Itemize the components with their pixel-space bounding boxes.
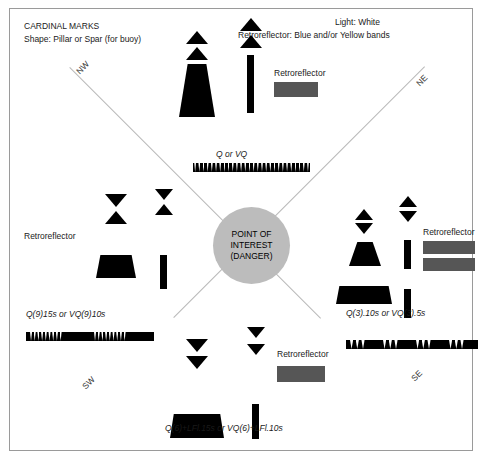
north-retroreflector-label: Retroreflector xyxy=(274,68,326,79)
east-light-rhythm-bar xyxy=(346,340,478,349)
north-light-rhythm-bar xyxy=(193,163,310,172)
west-spar-body xyxy=(160,255,167,289)
west-retroreflector-label: Retroreflector xyxy=(24,231,76,242)
east-pillar-band-yellow-mid xyxy=(346,266,384,286)
poi-line-1: POINT OF xyxy=(232,229,272,240)
north-spar-topmark-cone-upper-icon xyxy=(240,18,262,31)
page-title: CARDINAL MARKS xyxy=(24,21,99,32)
north-topmark-cone-upper-icon xyxy=(186,31,208,44)
poi-line-3: (DANGER) xyxy=(230,251,272,262)
west-topmark-cone-upper-icon xyxy=(105,194,127,207)
north-retroreflector-band xyxy=(274,82,318,97)
north-light-label: Q or VQ xyxy=(216,149,247,159)
south-topmark-cone-lower-icon xyxy=(186,356,208,369)
west-pillar-band-yellow-top xyxy=(99,231,133,255)
quadrant-label-se: SE xyxy=(409,368,424,383)
west-light-rhythm-bar xyxy=(26,332,154,341)
diagram-frame: CARDINAL MARKS Shape: Pillar or Spar (fo… xyxy=(9,8,473,451)
north-pillar-buoy-body xyxy=(179,64,215,117)
south-spar-topmark-cone-upper-icon xyxy=(247,327,265,338)
south-spar-body xyxy=(252,404,259,439)
west-topmark-cone-lower-icon xyxy=(105,211,127,224)
light-legend: Light: White xyxy=(335,17,380,28)
east-retroreflector-band-upper xyxy=(423,241,475,254)
south-retroreflector-band xyxy=(277,366,325,382)
east-pillar-band-black-top xyxy=(349,242,381,266)
south-light-label: Q(6)+LFl.15s or VQ(6)+LFl.10s xyxy=(165,423,283,433)
south-pillar-band-yellow-top xyxy=(180,381,214,414)
west-spar-topmark-cone-lower-icon xyxy=(155,204,173,215)
west-pillar-band-black-mid xyxy=(96,255,136,278)
west-light-label: Q(9)15s or VQ(9)10s xyxy=(26,309,105,319)
north-topmark-cone-lower-icon xyxy=(186,47,208,60)
south-retroreflector-label: Retroreflector xyxy=(277,349,329,360)
shape-subtitle: Shape: Pillar or Spar (for buoy) xyxy=(24,34,141,45)
west-pillar-band-yellow-bottom xyxy=(94,278,138,290)
east-topmark-cone-lower-icon xyxy=(355,223,373,234)
east-pillar-band-black-bottom xyxy=(336,286,392,304)
north-spar-body xyxy=(247,55,254,113)
east-spar-band-black-upper xyxy=(404,240,411,269)
point-of-interest-circle: POINT OF INTEREST (DANGER) xyxy=(213,207,290,284)
poi-line-2: INTEREST xyxy=(230,240,272,251)
east-topmark-cone-upper-icon xyxy=(355,209,373,220)
south-spar-topmark-cone-lower-icon xyxy=(247,344,265,355)
west-spar-topmark-cone-upper-icon xyxy=(155,189,173,200)
north-spar-topmark-cone-lower-icon xyxy=(240,35,262,48)
east-retroreflector-label: Retroreflector xyxy=(423,227,475,238)
east-retroreflector-band-lower xyxy=(423,258,475,271)
east-light-label: Q(3).10s or VQ(3).5s xyxy=(346,308,425,318)
south-topmark-cone-upper-icon xyxy=(186,339,208,352)
quadrant-label-sw: SW xyxy=(80,374,97,391)
east-spar-topmark-cone-lower-icon xyxy=(399,211,417,222)
east-spar-topmark-cone-upper-icon xyxy=(399,196,417,207)
